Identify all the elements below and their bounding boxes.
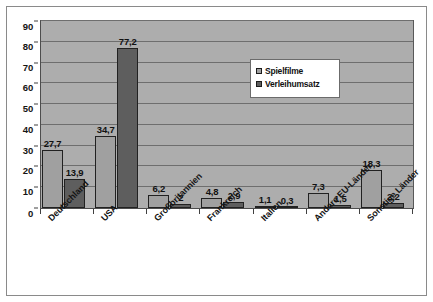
bar-value-label: 34,7 bbox=[97, 124, 115, 135]
bar-value-label: 7,3 bbox=[312, 181, 325, 192]
y-axis-tick bbox=[34, 83, 38, 84]
bar-value-label: 77,2 bbox=[119, 36, 137, 47]
y-axis-tick-label: 70 bbox=[23, 62, 33, 63]
y-axis-tick bbox=[34, 187, 38, 188]
x-axis-labels: DeutschlandUSAGroßbritannienFrankreichIt… bbox=[40, 212, 414, 296]
chart-figure: 0102030405060708090 27,713,934,777,26,22… bbox=[0, 0, 433, 302]
legend-swatch-icon bbox=[256, 68, 262, 74]
y-axis-tick bbox=[34, 21, 38, 22]
y-axis-tick-label: 10 bbox=[23, 187, 33, 188]
bar-value-label: 4,8 bbox=[206, 186, 219, 197]
bar bbox=[42, 150, 63, 208]
y-axis-tick-label: 40 bbox=[23, 124, 33, 125]
y-axis-tick bbox=[34, 166, 38, 167]
bar bbox=[95, 136, 116, 208]
bar-value-label: 13,9 bbox=[66, 167, 84, 178]
y-axis: 0102030405060708090 bbox=[6, 20, 38, 209]
y-axis-tick-label: 60 bbox=[23, 83, 33, 84]
y-axis-tick-label: 0 bbox=[28, 208, 33, 209]
bar-value-label: 1,1 bbox=[259, 194, 272, 205]
y-axis-tick-label: 90 bbox=[23, 21, 33, 22]
y-axis-tick bbox=[34, 41, 38, 42]
bar bbox=[117, 48, 138, 208]
y-axis-tick-label: 50 bbox=[23, 104, 33, 105]
legend-label: Verleihumsatz bbox=[265, 79, 320, 89]
y-axis-tick-label: 20 bbox=[23, 166, 33, 167]
bar-value-label: 6,2 bbox=[153, 183, 166, 194]
y-axis-tick bbox=[34, 104, 38, 105]
bar-group: 1,10,3 bbox=[254, 21, 307, 208]
bar-group: 27,713,9 bbox=[41, 21, 94, 208]
bar-value-label: 27,7 bbox=[44, 138, 62, 149]
y-axis-tick bbox=[34, 208, 38, 209]
y-axis-tick-label: 80 bbox=[23, 41, 33, 42]
y-axis-tick bbox=[34, 124, 38, 125]
legend-label: Spielfilme bbox=[265, 66, 303, 76]
y-axis-tick-label: 30 bbox=[23, 145, 33, 146]
legend-swatch-icon bbox=[256, 81, 262, 87]
bar-group: 4,82,9 bbox=[200, 21, 253, 208]
legend-item-spielfilme: Spielfilme bbox=[256, 66, 334, 76]
legend-item-verleihumsatz: Verleihumsatz bbox=[256, 79, 334, 89]
y-axis-tick bbox=[34, 145, 38, 146]
y-axis-tick bbox=[34, 62, 38, 63]
chart-legend: Spielfilme Verleihumsatz bbox=[250, 59, 340, 98]
bar-group: 34,777,2 bbox=[94, 21, 147, 208]
